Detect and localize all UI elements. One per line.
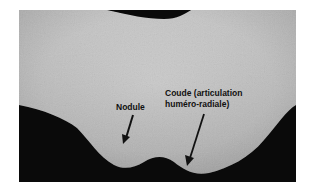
nodule-label: Nodule <box>116 102 145 113</box>
coude-label-line2: huméro-radiale) <box>165 99 242 110</box>
coude-label-line1: Coude (articulation <box>165 88 242 99</box>
elbow-photograph: Nodule Coude (articulation huméro-radial… <box>19 10 296 182</box>
coude-label: Coude (articulation huméro-radiale) <box>165 88 242 109</box>
nodule-label-text: Nodule <box>116 102 145 112</box>
photo-illustration <box>19 10 296 182</box>
